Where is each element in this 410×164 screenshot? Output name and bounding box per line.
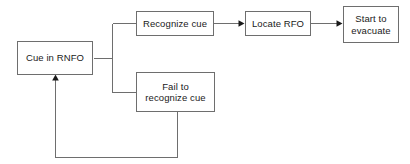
node-locate-rfo-label: Locate RFO [249,18,307,30]
node-recognize-cue-label: Recognize cue [140,18,210,30]
node-start-to-evacuate-label: Start to evacuate [348,13,393,36]
node-fail-to-recognize-cue-label: Fail to recognize cue [142,81,208,104]
node-recognize-cue[interactable]: Recognize cue [136,11,214,36]
arrowhead-into-start-evacuate [337,20,343,27]
node-fail-to-recognize-cue[interactable]: Fail to recognize cue [136,72,215,112]
node-cue-in-rnfo-label: Cue in RNFO [23,52,87,64]
node-cue-in-rnfo[interactable]: Cue in RNFO [17,41,93,75]
arrowhead-into-locate-rfo [239,20,245,27]
node-start-to-evacuate[interactable]: Start to evacuate [343,6,399,43]
arrowhead-into-cue-in-rnfo [52,75,59,81]
node-locate-rfo[interactable]: Locate RFO [245,11,311,36]
flowchart-diagram: Cue in RNFO Recognize cue Locate RFO Sta… [0,0,410,164]
